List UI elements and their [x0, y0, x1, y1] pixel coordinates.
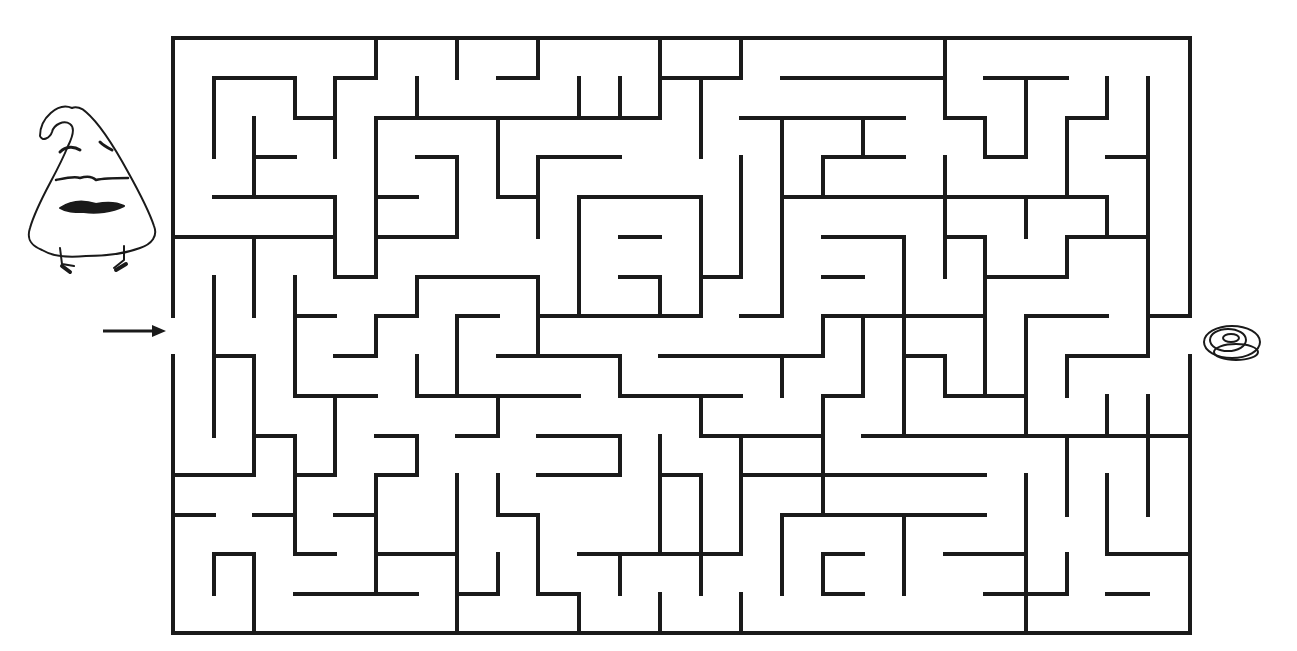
maze-wall [214, 554, 254, 633]
maze-wall [457, 396, 498, 436]
maze-wall [214, 78, 335, 157]
maze-wall [701, 396, 823, 436]
maze-wall [701, 157, 741, 277]
maze-wall [335, 78, 417, 277]
maze [0, 0, 1297, 651]
rose-icon [1204, 326, 1260, 360]
maze-wall [985, 594, 1026, 633]
maze-wall [1067, 316, 1148, 356]
maze-wall [1148, 78, 1190, 316]
maze-wall [498, 118, 538, 237]
maze-wall [335, 316, 376, 356]
maze-wall [376, 38, 741, 118]
maze-wall [863, 118, 904, 157]
maze-wall [823, 316, 863, 475]
maze-wall [701, 78, 741, 157]
maze-wall [823, 554, 863, 594]
maze-wall [1107, 475, 1148, 554]
maze-wall [945, 554, 1067, 594]
maze-wall [376, 436, 417, 554]
maze-wall [498, 38, 538, 78]
maze-walls [173, 38, 1190, 633]
maze-wall [295, 277, 376, 396]
maze-wall [417, 277, 620, 396]
maze-wall [417, 316, 457, 396]
maze-wall [579, 197, 660, 316]
start-arrow-icon [103, 325, 166, 337]
maze-wall [741, 118, 782, 316]
maze-wall [335, 38, 376, 157]
maze-wall [498, 475, 538, 515]
maze-wall [254, 515, 335, 554]
maze-wall [701, 436, 741, 554]
maze-wall [579, 197, 701, 316]
maze-wall [620, 277, 660, 316]
maze-wall [295, 396, 335, 475]
maze-wall [660, 475, 701, 515]
maze-wall [538, 515, 579, 633]
maze-wall [985, 316, 1026, 396]
maze-wall [1148, 396, 1190, 436]
maze-wall [538, 436, 620, 475]
maze-wall [1067, 78, 1107, 197]
nose-character-icon [29, 107, 155, 272]
maze-wall [457, 515, 498, 594]
maze-wall [173, 197, 335, 237]
